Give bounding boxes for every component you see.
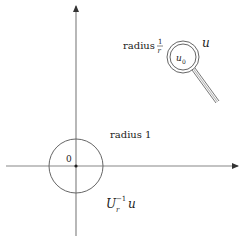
transformed-label: U r −1 u (106, 195, 136, 214)
radius-small-frac-num: 1 (158, 38, 162, 46)
magnifier-icon (167, 41, 219, 103)
svg-text:r: r (116, 206, 120, 214)
svg-text:−1: −1 (116, 195, 126, 203)
svg-text:u: u (128, 197, 136, 211)
origin-point (74, 164, 77, 167)
diagram-canvas: radius 1 r u u 0 radius 1 0 U r −1 u (0, 0, 243, 238)
radius-small-frac-den: r (158, 47, 162, 55)
radius-small-label: radius (123, 40, 155, 51)
u-label: u (202, 36, 210, 50)
radius-unit-label: radius 1 (110, 129, 151, 140)
origin-label: 0 (66, 154, 72, 164)
u0-subscript: 0 (182, 58, 186, 65)
